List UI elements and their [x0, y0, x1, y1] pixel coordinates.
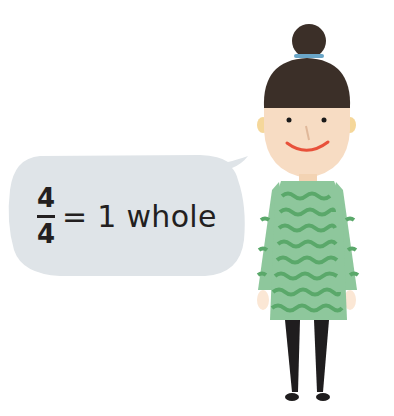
hair-bun: [292, 24, 326, 58]
hair-tie: [294, 54, 324, 58]
right-eye: [322, 118, 327, 123]
face: [264, 100, 350, 178]
left-shoe: [285, 393, 299, 401]
right-shoe: [316, 393, 330, 401]
right-leg: [314, 320, 329, 392]
left-leg: [285, 320, 300, 392]
hair: [264, 58, 350, 108]
left-hand: [257, 290, 269, 310]
left-eye: [287, 118, 292, 123]
girl-illustration: [0, 0, 394, 416]
dress: [270, 181, 347, 320]
